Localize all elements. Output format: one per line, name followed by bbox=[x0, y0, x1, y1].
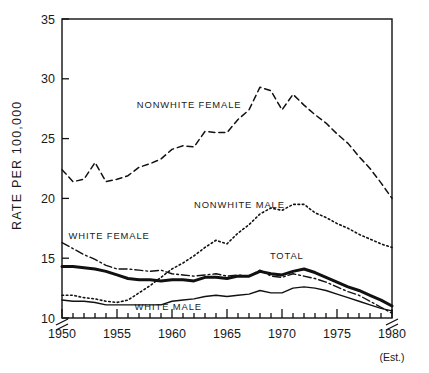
axis-break-upper-left bbox=[56, 319, 68, 325]
y-axis-title: RATE PER 100,000 bbox=[10, 101, 24, 230]
x-tick-label-1950: 1950 bbox=[48, 327, 76, 341]
y-tick-label-10: 10 bbox=[41, 312, 55, 326]
x-tick-label-1965: 1965 bbox=[213, 327, 241, 341]
series-label-white-male: WHITE MALE bbox=[135, 301, 202, 312]
series-line-total bbox=[62, 267, 392, 306]
x-tick-label-1960: 1960 bbox=[158, 327, 186, 341]
x-axis: 1950195519601965197019751980 bbox=[48, 309, 406, 341]
x-tick-label-1975: 1975 bbox=[323, 327, 351, 341]
x-axis-estimate-note: (Est.) bbox=[379, 351, 404, 363]
x-tick-label-1980: 1980 bbox=[378, 327, 406, 341]
y-tick-label-25: 25 bbox=[41, 132, 55, 146]
y-tick-label-15: 15 bbox=[41, 252, 55, 266]
x-tick-label-1970: 1970 bbox=[268, 327, 296, 341]
x-tick-label-1955: 1955 bbox=[103, 327, 131, 341]
series-line-white-male bbox=[62, 287, 392, 311]
y-tick-label-35: 35 bbox=[41, 13, 55, 27]
chart-container: 101520253035 195019551960196519701975198… bbox=[0, 0, 429, 373]
series-label-nonwhite-male: NONWHITE MALE bbox=[194, 199, 285, 210]
series-line-nonwhite-male bbox=[62, 204, 392, 302]
series-label-nonwhite-female: NONWHITE FEMALE bbox=[137, 99, 242, 110]
series-label-white-female: WHITE FEMALE bbox=[69, 230, 150, 241]
series-label-total: TOTAL bbox=[270, 250, 304, 261]
line-chart: 101520253035 195019551960196519701975198… bbox=[0, 0, 429, 373]
y-axis: 101520253035 bbox=[41, 13, 69, 326]
y-tick-label-30: 30 bbox=[41, 72, 55, 86]
y-tick-label-20: 20 bbox=[41, 192, 55, 206]
axis-break-upper-right bbox=[386, 319, 398, 325]
